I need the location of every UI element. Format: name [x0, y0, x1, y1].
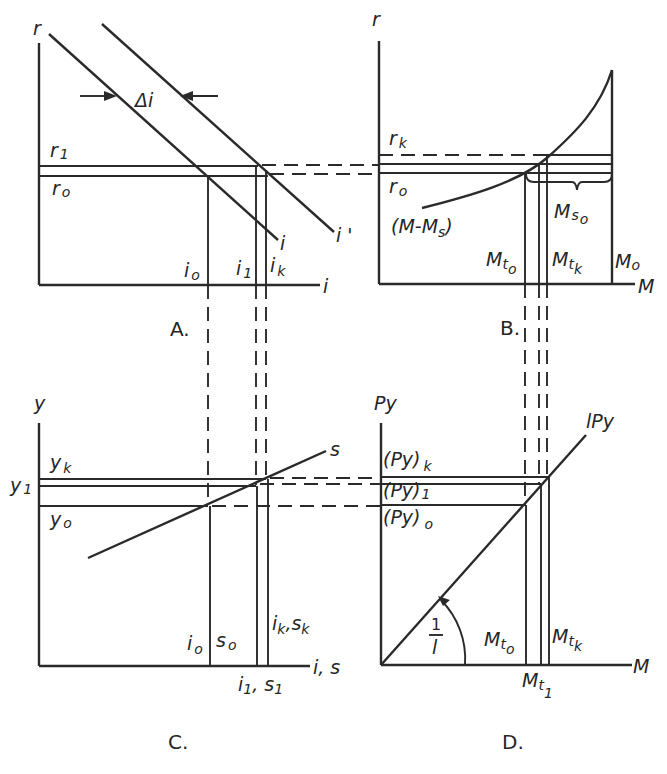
panel-d-y-label: Py [374, 392, 397, 414]
y0-label: yo [49, 508, 72, 531]
four-quadrant-diagram: r i i i ' Δi r1 ro io i1 ik A. r [0, 0, 667, 774]
mtk-label-d: Mtk [552, 625, 583, 654]
i0-label-c: io [187, 632, 203, 657]
panel-d: Py M lPy 1 l (Py)k (Py)1 (Py)o Mto Mtk M… [374, 392, 649, 754]
panel-d-caption: D. [502, 730, 524, 754]
lpy-label: lPy [586, 410, 615, 432]
panel-b: r M rk ro Mso (M-Ms) Mto Mtk Mo B. [372, 8, 654, 340]
panel-c-y-label: y [33, 392, 46, 414]
mt0-label: Mto [486, 248, 516, 277]
panel-c-x-label: i, s [313, 656, 340, 678]
py0-label: (Py)o [383, 506, 433, 532]
saving-curve-label: s [330, 438, 340, 460]
py1-label: (Py)1 [383, 479, 430, 502]
i1-s1-label: i1, s1 [238, 673, 283, 697]
y1-label: y1 [9, 474, 32, 497]
mtk-label: Mtk [552, 248, 583, 277]
curve-i-label: i [280, 232, 286, 254]
arrow-head-icon [438, 596, 450, 606]
panel-a-x-label: i [323, 275, 329, 297]
investment-curve-i [49, 34, 278, 240]
panel-c-caption: C. [168, 730, 188, 754]
slope-denominator: l [432, 636, 438, 658]
pyk-label: (Py)k [383, 448, 433, 474]
saving-curve [88, 451, 326, 558]
panel-b-y-label: r [372, 8, 381, 30]
liquidity-curve [422, 70, 612, 208]
curve-i-prime-label: i ' [336, 224, 353, 246]
m-minus-ms-label: (M-Ms) [391, 215, 453, 240]
yk-label: yk [49, 451, 72, 476]
panel-a-caption: A. [170, 317, 190, 341]
i0-label: io [184, 259, 200, 283]
panel-c: y i, s s yk y1 yo io so ik,sk i1, s1 C. [9, 392, 340, 754]
rk-label: rk [389, 127, 408, 151]
ik-sk-label: ik,sk [272, 612, 310, 637]
mt0-label-d: Mto [484, 628, 514, 657]
panel-d-x-label: M [633, 655, 649, 677]
i1-label: i1 [236, 257, 252, 281]
r1-label: r1 [50, 139, 69, 162]
panel-b-x-label: M [638, 275, 654, 297]
delta-i-annotation: Δi [80, 89, 218, 111]
ms0-label: Mso [554, 200, 588, 227]
slope-numerator: 1 [431, 615, 441, 634]
r0-label: ro [52, 177, 70, 200]
mt1-label-d: Mt1 [522, 669, 553, 701]
m0-label: Mo [615, 250, 640, 273]
investment-curve-i-prime [102, 24, 334, 232]
panel-b-caption: B. [500, 316, 520, 340]
delta-i-label: Δi [133, 89, 154, 111]
ik-label: ik [270, 254, 286, 279]
slope-arc [441, 600, 465, 665]
r0-label-b: ro [389, 175, 407, 199]
panel-a-y-label: r [33, 17, 42, 39]
s0-label: so [216, 629, 236, 653]
panel-a: r i i i ' Δi r1 ro io i1 ik A. [33, 17, 353, 341]
